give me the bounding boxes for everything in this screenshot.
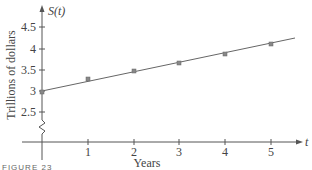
x-tick-label: 4	[222, 145, 228, 159]
data-point	[40, 90, 44, 94]
x-axis-title: Years	[134, 156, 161, 170]
y-tick-label: 2.5	[21, 105, 36, 119]
chart-canvas: 4.5 4 3.5 3 2.5 1 2 3 4 5 S(t) t Years T…	[0, 0, 312, 170]
y-axis-break-icon	[39, 120, 45, 134]
x-tick-label: 1	[85, 145, 91, 159]
y-tick-label: 4.5	[21, 20, 36, 34]
trend-line	[42, 38, 295, 91]
data-point	[223, 52, 227, 56]
y-tick-label: 4	[30, 42, 36, 56]
x-axis-variable-label: t	[305, 135, 309, 149]
x-axis-arrow-icon	[296, 140, 303, 145]
data-point	[132, 69, 136, 73]
x-tick-label: 5	[268, 145, 274, 159]
y-tick-label: 3	[30, 84, 36, 98]
y-tick-labels: 4.5 4 3.5 3 2.5	[21, 20, 36, 119]
data-point	[86, 77, 90, 81]
x-tick-label: 3	[176, 145, 182, 159]
figure-caption: FIGURE 23	[2, 163, 52, 170]
data-point	[269, 42, 273, 46]
y-axis-title: Trillions of dollars	[4, 30, 18, 120]
y-axis-variable-label: S(t)	[48, 4, 65, 18]
data-point	[177, 61, 181, 65]
y-axis-arrow-icon	[40, 5, 45, 12]
y-tick-label: 3.5	[21, 63, 36, 77]
x-tick-labels: 1 2 3 4 5	[85, 145, 274, 159]
